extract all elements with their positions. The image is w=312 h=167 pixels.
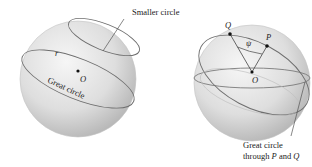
- center-point-o: [76, 69, 79, 72]
- angle-psi-label: ψ: [246, 38, 252, 48]
- center-point-o: [250, 70, 253, 73]
- point-q: [228, 32, 232, 36]
- point-q-label: Q: [225, 20, 231, 30]
- left-sphere: Smaller circle r O Great circle: [15, 7, 180, 137]
- diagram-canvas: Smaller circle r O Great circle Q P ψ O …: [0, 0, 312, 167]
- smaller-circle-label: Smaller circle: [132, 7, 180, 17]
- right-sphere: Q P ψ O Great circle through P and Q: [186, 19, 312, 161]
- point-p-label: P: [265, 32, 271, 42]
- caption-line-2: through P and Q: [243, 151, 299, 161]
- caption-line-1: Great circle: [243, 140, 283, 150]
- point-p: [265, 44, 269, 48]
- center-label-o: O: [80, 74, 86, 84]
- center-label-o: O: [252, 75, 258, 85]
